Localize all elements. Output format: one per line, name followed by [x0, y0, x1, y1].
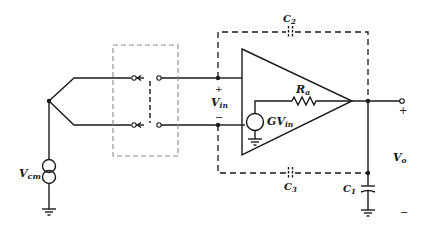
vin-label: Vin	[211, 96, 228, 110]
vcm-label: Vcm	[19, 167, 41, 181]
c3-capacitor	[289, 167, 293, 179]
c3-label: C3	[284, 181, 297, 194]
ra-label: Ra	[295, 83, 310, 97]
vin-plus-sign: +	[215, 84, 223, 94]
input-plus-node	[216, 76, 220, 80]
ground-icon	[248, 139, 262, 145]
vcm-source: Vcm	[19, 101, 56, 215]
vo-label: Vo	[393, 151, 407, 165]
c1-capacitor: C1	[343, 101, 375, 216]
switch	[113, 45, 178, 156]
ra-resistor	[292, 97, 352, 105]
switch-enclosure	[113, 45, 178, 156]
vo-plus-sign: +	[399, 105, 407, 116]
thermocouple-leads	[49, 78, 218, 125]
ground-icon	[361, 210, 375, 216]
vin-minus-sign: −	[215, 112, 223, 123]
ground-icon	[42, 209, 56, 215]
vo-minus-sign: −	[400, 207, 408, 218]
c2-capacitor	[289, 26, 293, 38]
output-terminal	[400, 99, 405, 104]
input-minus-node	[216, 123, 220, 127]
c2-label: C2	[283, 13, 296, 26]
amplifier: GVin Ra	[242, 49, 352, 155]
thermocouple	[47, 78, 218, 125]
circuit-diagram: Vcm C2 C3	[0, 0, 424, 234]
gvin-label: GVin	[267, 115, 293, 129]
c1-label: C1	[343, 183, 356, 196]
gvin-source	[247, 114, 264, 131]
